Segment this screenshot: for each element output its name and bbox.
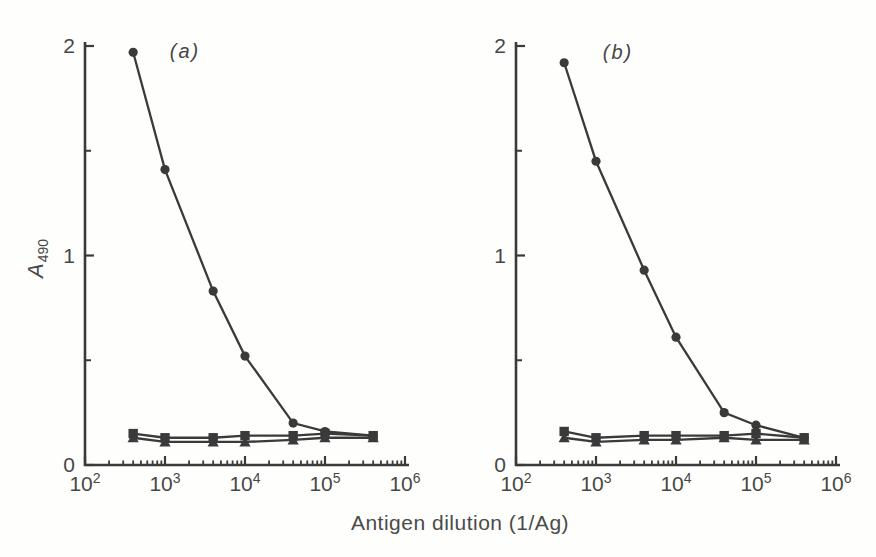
marker-circle-immune-serum [560,58,569,67]
y-tick-label: 2 [494,34,506,57]
marker-circle-immune-serum [720,408,729,417]
x-tick-label: 103 [149,470,180,495]
marker-circle-immune-serum [289,419,298,428]
marker-circle-immune-serum [640,266,649,275]
x-tick-label: 106 [389,470,420,495]
x-tick-label: 104 [660,470,691,495]
x-tick-label: 102 [500,470,531,495]
marker-circle-immune-serum [591,157,600,166]
y-axis-label-base: A [23,263,48,278]
figure-canvas: 012102103104105106012102103104105106 (a)… [0,0,876,557]
x-tick-label: 105 [309,470,340,495]
y-axis-label-subscript: 490 [35,239,51,262]
elisa-dilution-chart: 012102103104105106012102103104105106 [0,0,876,557]
panel-a-label: (a) [143,40,227,63]
marker-circle-immune-serum [129,48,138,57]
marker-circle-immune-serum [751,421,760,430]
marker-circle-immune-serum [160,165,169,174]
x-tick-label: 103 [580,470,611,495]
x-tick-label: 104 [229,470,260,495]
y-tick-label: 1 [494,244,506,267]
x-tick-label: 106 [820,470,851,495]
panel-b-label: (b) [576,41,660,64]
series-line-immune-serum [564,63,804,438]
marker-circle-immune-serum [240,351,249,360]
x-axis-label: Antigen dilution (1/Ag) [280,511,640,535]
marker-circle-immune-serum [671,333,680,342]
marker-circle-immune-serum [209,287,218,296]
y-axis-label: A490 [23,215,49,303]
series-line-immune-serum [133,52,373,435]
x-tick-label: 102 [69,470,100,495]
x-tick-label: 105 [740,470,771,495]
y-tick-label: 1 [63,244,75,267]
y-tick-label: 2 [63,34,75,57]
